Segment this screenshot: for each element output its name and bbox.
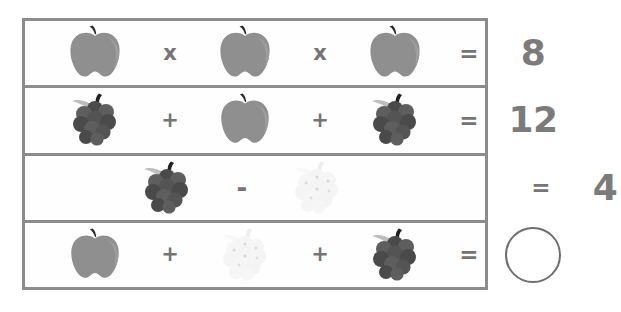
row2-operator-1: + xyxy=(143,88,197,152)
result-value: 4 xyxy=(593,170,618,206)
row2-result: 12 xyxy=(495,88,571,152)
row4-operand-2 xyxy=(197,223,293,287)
equals-symbol: = xyxy=(459,243,478,266)
row3-result: 4 xyxy=(567,156,621,220)
operator-symbol: x xyxy=(313,43,327,64)
row2-equals: = xyxy=(443,88,495,152)
row1-operand-3 xyxy=(347,21,443,85)
apple-icon xyxy=(64,25,126,81)
row2-left-spacer xyxy=(25,88,47,152)
equation-row-1: x x = xyxy=(25,21,485,88)
operator-symbol: + xyxy=(311,244,329,265)
row1-operand-1 xyxy=(47,21,143,85)
equation-row-2: + + xyxy=(25,88,485,155)
apple-icon xyxy=(215,93,275,147)
row1-result: 8 xyxy=(495,21,571,85)
row4-operand-1 xyxy=(47,223,143,287)
operator-symbol: + xyxy=(311,110,329,131)
row3-operand-spacer xyxy=(419,156,515,220)
row1-left-spacer xyxy=(25,21,47,85)
row3-equals: = xyxy=(515,156,567,220)
row3-operand-1 xyxy=(119,156,215,220)
result-value: 12 xyxy=(508,102,557,138)
equals-symbol: = xyxy=(459,109,478,132)
row3-left-spacer xyxy=(25,156,119,220)
row3-operand-2 xyxy=(269,156,365,220)
row4-equals: = xyxy=(443,223,495,287)
row1-operand-2 xyxy=(197,21,293,85)
puzzle-table: x x = xyxy=(22,18,488,290)
equation-row-3: - xyxy=(25,156,485,223)
operator-symbol: - xyxy=(237,175,248,201)
row4-operator-1: + xyxy=(143,223,197,287)
grapes-icon xyxy=(365,92,425,148)
apple-icon xyxy=(214,25,276,81)
row2-operand-3 xyxy=(347,88,443,152)
grapes-icon xyxy=(137,160,197,216)
row2-operator-2: + xyxy=(293,88,347,152)
grapes-icon xyxy=(65,92,125,148)
apple-icon xyxy=(364,25,426,81)
apple-icon xyxy=(65,228,125,282)
operator-symbol: + xyxy=(161,110,179,131)
row4-operand-3 xyxy=(347,223,443,287)
row1-equals: = xyxy=(443,21,495,85)
row3-operator-1: - xyxy=(215,156,269,220)
row2-operand-2 xyxy=(197,88,293,152)
faint-grapes-icon xyxy=(215,227,275,283)
row2-operand-1 xyxy=(47,88,143,152)
row1-operator-2: x xyxy=(293,21,347,85)
equals-symbol: = xyxy=(531,176,550,199)
operator-symbol: x xyxy=(163,43,177,64)
equation-row-4: + xyxy=(25,223,485,287)
operator-symbol: + xyxy=(161,244,179,265)
equals-symbol: = xyxy=(459,42,478,65)
row4-result[interactable] xyxy=(495,223,571,287)
row1-operator-1: x xyxy=(143,21,197,85)
faint-grapes-icon xyxy=(287,160,347,216)
row4-operator-2: + xyxy=(293,223,347,287)
grapes-icon xyxy=(365,227,425,283)
row3-operator-spacer xyxy=(365,156,419,220)
answer-circle[interactable] xyxy=(505,227,561,283)
row4-left-spacer xyxy=(25,223,47,287)
result-value: 8 xyxy=(521,35,546,71)
